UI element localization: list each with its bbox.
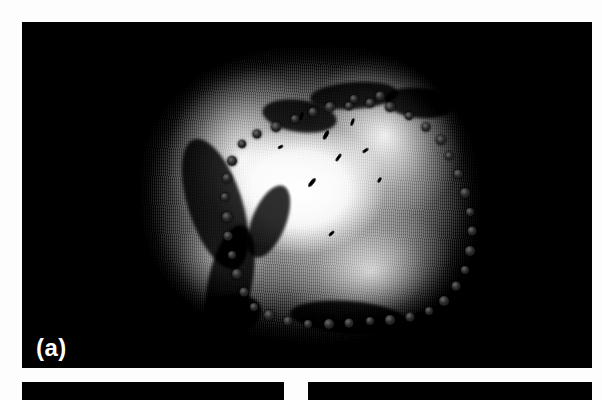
ink-dot-marker: [228, 251, 236, 259]
ink-dot-marker: [461, 266, 469, 274]
panel-c-photograph: [308, 382, 592, 400]
ink-dot-marker: [324, 319, 334, 329]
ink-dot-marker: [232, 269, 242, 279]
ink-dot-marker: [224, 231, 233, 240]
ink-dot-marker: [222, 174, 231, 183]
ink-dot-marker: [445, 152, 453, 160]
ink-dot-marker: [350, 95, 358, 103]
ink-dot-marker: [222, 212, 232, 222]
ink-dot-marker: [452, 281, 461, 290]
ink-dot-marker: [345, 318, 354, 327]
ink-dot-marker: [366, 317, 374, 325]
ink-dot-marker: [425, 307, 433, 315]
ink-dot-marker: [466, 208, 474, 216]
ink-dot-marker: [304, 320, 312, 328]
ink-dot-marker: [421, 122, 430, 131]
ink-dot-marker: [436, 135, 446, 145]
panel-a-photograph: (a): [22, 22, 592, 368]
ink-dot-marker: [283, 317, 292, 326]
ink-dot-marker: [345, 102, 353, 110]
ink-dot-marker: [325, 102, 335, 112]
ink-dot-marker: [227, 156, 237, 166]
ink-dot-marker: [439, 296, 449, 306]
ink-dot-marker: [460, 188, 470, 198]
ink-dot-marker: [239, 287, 248, 296]
ink-dot-marker: [264, 310, 274, 320]
ink-dot-marker: [291, 115, 299, 123]
ink-dot-marker: [465, 246, 475, 256]
ink-dot-marker: [250, 303, 258, 311]
ink-dot-marker: [271, 122, 281, 132]
figure-root: (a): [0, 0, 602, 400]
ink-dot-marker: [221, 193, 229, 201]
panel-b-photograph: [22, 382, 284, 400]
ink-dot-marker: [467, 227, 476, 236]
ink-dot-marker: [253, 130, 262, 139]
ink-dot-marker: [405, 112, 413, 120]
ink-dot-marker: [385, 315, 395, 325]
ink-dot-marker: [453, 169, 462, 178]
ink-dot-marker: [238, 140, 246, 148]
ink-dot-marker: [309, 107, 318, 116]
ink-dot-marker: [375, 91, 384, 100]
ink-dot-marker: [385, 102, 395, 112]
panel-label-a: (a): [36, 334, 67, 362]
ink-dot-marker: [406, 312, 415, 321]
ink-dot-marker: [365, 99, 374, 108]
specimen-tissue-mass: [140, 47, 480, 342]
